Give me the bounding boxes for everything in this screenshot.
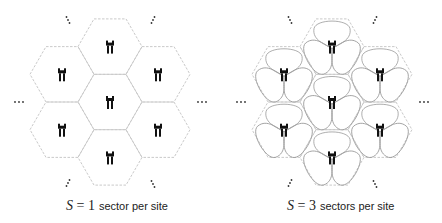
ellipsis-icon (373, 16, 378, 24)
caption-single-sector: S = 1sector per site (66, 198, 168, 214)
ellipsis-icon (419, 101, 429, 103)
antenna-lobe (371, 61, 413, 106)
hex-cell (252, 102, 316, 157)
ellipsis-icon (151, 16, 156, 24)
antenna-lobe (251, 61, 293, 106)
cellular-layout-diagram (0, 0, 442, 223)
hex-cell (300, 130, 364, 185)
ellipsis-icon (14, 101, 24, 103)
hex-cell (252, 47, 316, 102)
ellipsis-icon (373, 180, 378, 188)
hex-cell (30, 47, 94, 102)
ellipsis-icon (151, 180, 156, 188)
base-station-antenna-icon (154, 124, 162, 137)
ellipsis-icon (288, 16, 293, 24)
caption-three-sector: S = 3sectors per site (287, 198, 395, 214)
hex-cell (78, 19, 142, 74)
hex-cell (126, 47, 190, 102)
base-station-antenna-icon (58, 124, 66, 137)
antenna-lobe (299, 144, 341, 189)
ellipsis-icon (66, 179, 71, 187)
hex-cell (126, 102, 190, 157)
ellipsis-icon (288, 179, 293, 187)
antenna-lobe (251, 116, 293, 161)
base-station-antenna-icon (154, 68, 162, 81)
ellipsis-icon (66, 16, 71, 24)
hex-cell (78, 130, 142, 185)
diagram-single-sector (14, 16, 207, 188)
ellipsis-icon (197, 101, 207, 103)
hex-cell (348, 102, 412, 157)
base-station-antenna-icon (106, 151, 114, 164)
hex-cell (300, 74, 364, 129)
hex-cell (300, 19, 364, 74)
antenna-lobe (323, 144, 365, 189)
base-station-antenna-icon (106, 41, 114, 54)
antenna-lobe (371, 116, 413, 161)
hex-cell (30, 102, 94, 157)
base-station-antenna-icon (106, 96, 114, 109)
hex-cell (348, 47, 412, 102)
hex-cell (78, 74, 142, 129)
diagram-three-sector (236, 16, 429, 189)
base-station-antenna-icon (58, 68, 66, 81)
ellipsis-icon (236, 101, 246, 103)
